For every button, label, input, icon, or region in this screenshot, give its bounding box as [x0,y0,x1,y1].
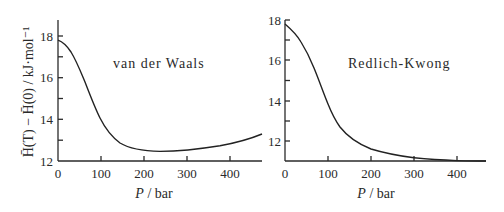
redlich-kwong-label: Redlich-Kwong [348,56,450,71]
left-panel-van-der-waals: 12 14 16 18 0 100 200 300 400 P / bar H̄… [21,20,262,201]
right-ytick-16: 16 [268,53,282,68]
left-x-axis-title: P / bar [134,186,173,201]
right-xtick-200: 200 [361,166,381,181]
right-y-ticks [285,20,290,141]
van-der-waals-label: van der Waals [113,56,205,71]
left-y-axis-title: H̄(T) − H̄(0) / kJ·mol⁻¹ [21,27,37,158]
left-xtick-300: 300 [177,166,197,181]
right-xtick-300: 300 [404,166,424,181]
left-ytick-18: 18 [40,29,53,44]
redlich-kwong-curve [285,24,486,161]
right-x-axis-title: P / bar [356,186,395,201]
left-ytick-12: 12 [40,154,53,169]
right-ytick-18: 18 [268,13,281,28]
right-xtick-100: 100 [318,166,338,181]
left-ytick-14: 14 [40,112,54,127]
right-xtick-400: 400 [447,166,467,181]
left-ytick-16: 16 [40,70,54,85]
right-panel-redlich-kwong: 12 14 16 18 0 100 200 300 400 P / bar Re… [268,13,486,202]
left-y-ticks [58,36,63,140]
left-x-ticks [101,156,230,161]
left-xtick-400: 400 [220,166,240,181]
left-xtick-200: 200 [134,166,154,181]
right-xtick-0: 0 [282,166,289,181]
left-xtick-100: 100 [91,166,111,181]
right-ytick-14: 14 [268,94,282,109]
chart-figure: 12 14 16 18 0 100 200 300 400 P / bar H̄… [0,0,504,212]
right-ytick-12: 12 [268,134,281,149]
left-xtick-0: 0 [55,166,62,181]
